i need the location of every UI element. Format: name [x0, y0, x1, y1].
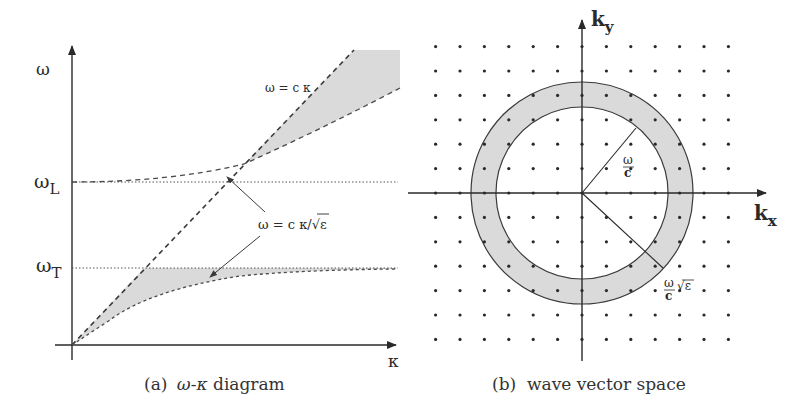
lattice-dot: [458, 338, 461, 341]
lattice-dot: [629, 45, 632, 48]
lattice-dot: [702, 289, 705, 292]
lattice-dot: [702, 338, 705, 341]
lattice-dot: [483, 313, 486, 316]
lattice-dot: [458, 265, 461, 268]
lattice-dot: [532, 313, 535, 316]
lattice-dot: [532, 118, 535, 121]
lattice-dot: [702, 143, 705, 146]
lattice-dot: [727, 265, 730, 268]
lattice-dot: [702, 94, 705, 97]
lattice-dot: [532, 338, 535, 341]
lattice-dot: [458, 289, 461, 292]
caption-a-rest: diagram: [208, 374, 285, 394]
lattice-dot: [483, 143, 486, 146]
lattice-dot: [702, 69, 705, 72]
lattice-dot: [629, 338, 632, 341]
lattice-dot: [434, 313, 437, 316]
lattice-dot: [654, 240, 657, 243]
lattice-dot: [605, 143, 608, 146]
kx-label: kx: [754, 201, 778, 230]
omega-T-main: ω: [36, 254, 52, 276]
lattice-dot: [654, 313, 657, 316]
inner-radius-label-den: c: [624, 166, 631, 180]
lattice-dot: [629, 118, 632, 121]
medium-line-label-prefix: ω = c κ/: [258, 217, 312, 232]
lattice-dot: [678, 118, 681, 121]
lattice-dot: [434, 167, 437, 170]
lattice-dot: [556, 118, 559, 121]
lattice-dot: [605, 45, 608, 48]
lattice-dot: [727, 338, 730, 341]
lattice-dot: [654, 167, 657, 170]
caption-a: (a) ω-κ diagram: [144, 374, 285, 394]
lattice-dot: [678, 143, 681, 146]
lattice-dot: [629, 69, 632, 72]
lattice-dot: [532, 265, 535, 268]
lattice-dot: [605, 338, 608, 341]
lattice-dot: [556, 289, 559, 292]
lattice-dot: [654, 45, 657, 48]
lattice-dot: [702, 313, 705, 316]
lattice-dot: [507, 216, 510, 219]
caption-a-kappa: κ: [195, 374, 207, 394]
omega-T-label: ωT: [36, 254, 62, 282]
caption-a-prefix: (a): [144, 374, 167, 394]
lattice-dot: [434, 143, 437, 146]
lattice-dot: [483, 289, 486, 292]
lattice-dot: [678, 94, 681, 97]
lattice-dot: [434, 338, 437, 341]
lattice-dot: [483, 240, 486, 243]
lattice-dot: [532, 216, 535, 219]
lattice-dot: [727, 167, 730, 170]
lattice-dot: [605, 118, 608, 121]
lattice-dot: [629, 94, 632, 97]
light-line: [72, 50, 354, 345]
lattice-dot: [434, 94, 437, 97]
lattice-dot: [702, 118, 705, 121]
lattice-dot: [702, 216, 705, 219]
lattice-dot: [483, 45, 486, 48]
lattice-dot: [483, 216, 486, 219]
figure-canvas: ω κ ωL ωT ω = c κ ω = c κ/√ε (a) ω-κ dia…: [0, 0, 801, 417]
lattice-dot: [483, 94, 486, 97]
lattice-dot: [654, 143, 657, 146]
lattice-dot: [507, 289, 510, 292]
lattice-dot: [629, 240, 632, 243]
caption-b: (b) wave vector space: [492, 374, 686, 394]
lattice-dot: [678, 313, 681, 316]
lattice-dot: [434, 216, 437, 219]
lattice-dot: [678, 69, 681, 72]
lattice-dot: [483, 338, 486, 341]
lattice-dot: [727, 216, 730, 219]
lattice-dot: [727, 240, 730, 243]
lattice-dot: [458, 216, 461, 219]
lower-shaded-band: [72, 268, 396, 345]
medium-line-label-sqrt: √ε: [312, 217, 327, 232]
lattice-dot: [605, 94, 608, 97]
lattice-dot: [532, 240, 535, 243]
lattice-dot: [434, 289, 437, 292]
lattice-dot: [654, 118, 657, 121]
lattice-dot: [629, 143, 632, 146]
lattice-dot: [727, 289, 730, 292]
lattice-dot: [654, 69, 657, 72]
lattice-dot: [654, 289, 657, 292]
annotation-arrow-upper: [227, 177, 265, 212]
lattice-dot: [678, 265, 681, 268]
inner-radius-label-num: ω: [623, 153, 633, 167]
lattice-dot: [556, 338, 559, 341]
omega-kappa-diagram: ω κ ωL ωT ω = c κ ω = c κ/√ε (a) ω-κ dia…: [34, 46, 400, 394]
lattice-dot: [458, 45, 461, 48]
lattice-dot: [629, 313, 632, 316]
lattice-dot: [532, 69, 535, 72]
lattice-dot: [629, 265, 632, 268]
omega-L-sub: L: [50, 180, 60, 198]
lattice-dot: [654, 216, 657, 219]
lattice-dot: [483, 118, 486, 121]
lattice-dot: [727, 118, 730, 121]
lattice-dot: [483, 167, 486, 170]
upper-shaded-band: [244, 50, 400, 164]
lattice-dot: [556, 240, 559, 243]
lattice-dot: [605, 240, 608, 243]
lattice-dot: [434, 45, 437, 48]
